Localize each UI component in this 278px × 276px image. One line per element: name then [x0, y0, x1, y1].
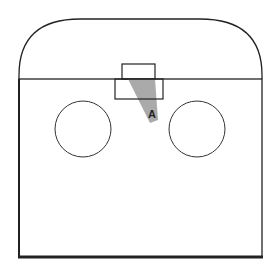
- top-arch: [19, 19, 262, 79]
- left-circle: [55, 101, 111, 157]
- main-box: [19, 79, 262, 257]
- diagram: A: [0, 0, 278, 276]
- right-circle: [169, 101, 225, 157]
- upper-rect: [122, 64, 155, 79]
- label-a: A: [148, 108, 156, 120]
